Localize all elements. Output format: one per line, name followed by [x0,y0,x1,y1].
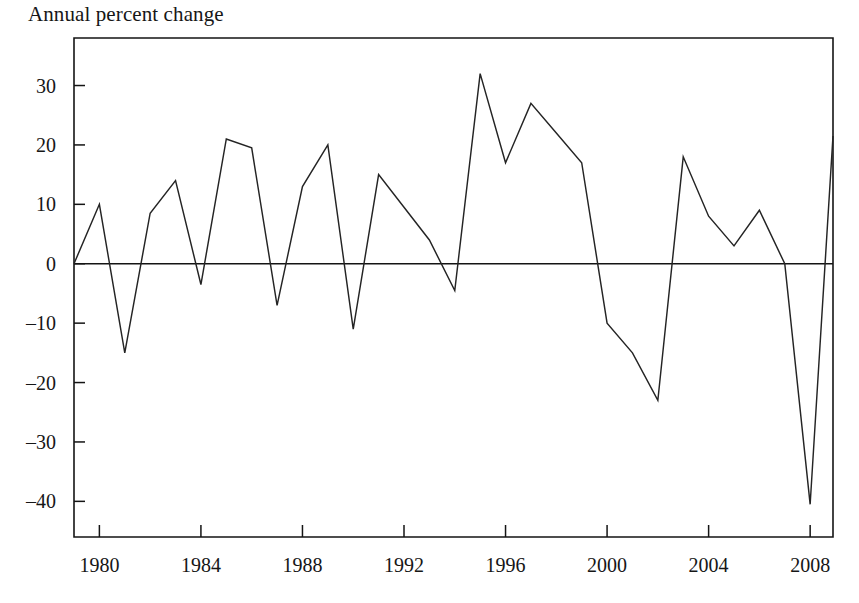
y-tick-label: 10 [36,193,56,215]
x-tick-label: 1984 [181,554,221,576]
data-series-line [74,74,833,505]
y-axis-tick-labels: 3020100–10–20–30–40 [25,75,56,513]
x-tick-label: 2000 [587,554,627,576]
data-series-group [74,74,833,505]
x-tick-label: 1980 [79,554,119,576]
y-tick-label: 30 [36,75,56,97]
line-chart-plot: 3020100–10–20–30–40 19801984198819921996… [0,0,859,603]
tick-marks-group [74,86,810,537]
x-tick-label: 2008 [790,554,830,576]
y-tick-label: 20 [36,134,56,156]
x-tick-label: 1992 [384,554,424,576]
y-tick-label: –40 [25,490,56,512]
x-axis-tick-labels: 19801984198819921996200020042008 [79,554,830,576]
y-tick-label: –30 [25,431,56,453]
x-tick-label: 1988 [282,554,322,576]
chart-container: Annual percent change 3020100–10–20–30–4… [0,0,859,603]
y-tick-label: –10 [25,312,56,334]
x-tick-label: 2004 [689,554,729,576]
y-tick-label: 0 [46,253,56,275]
x-tick-label: 1996 [486,554,526,576]
y-tick-label: –20 [25,372,56,394]
